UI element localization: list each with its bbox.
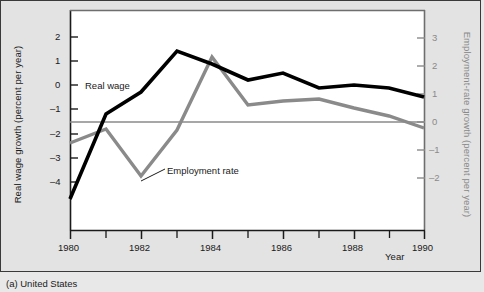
xtick-label-1984: 1984 xyxy=(200,242,221,253)
x-axis-title: Year xyxy=(385,251,405,262)
ytick-label-neg2: –2 xyxy=(50,128,61,139)
y-axis-title-right: Employment-rate growth (percent per year… xyxy=(462,25,473,225)
figure-container: 2 1 0 –1 –2 –3 –4 3 2 1 0 –1 –2 1980 198… xyxy=(0,0,484,292)
xtick-label-1986: 1986 xyxy=(271,242,292,253)
ytick-label-neg3: –3 xyxy=(50,152,61,163)
xtick-label-1990: 1990 xyxy=(412,242,433,253)
plot-area-background xyxy=(70,10,425,231)
y2tick-label-0: 0 xyxy=(432,116,437,127)
ytick-label-0: 0 xyxy=(55,79,60,90)
series-annotation-employment-rate: Employment rate xyxy=(167,165,239,176)
y2tick-label-1: 1 xyxy=(432,88,437,99)
xtick-label-1980: 1980 xyxy=(58,242,79,253)
ytick-label-2: 2 xyxy=(55,31,60,42)
series-annotation-real-wage: Real wage xyxy=(85,80,130,91)
ytick-label-neg4: –4 xyxy=(50,176,61,187)
y2tick-label-neg1: –1 xyxy=(429,144,440,155)
y2tick-label-neg2: –2 xyxy=(429,172,440,183)
chart-panel: 2 1 0 –1 –2 –3 –4 3 2 1 0 –1 –2 1980 198… xyxy=(0,0,481,272)
figure-caption: (a) United States xyxy=(6,278,77,289)
y2tick-label-2: 2 xyxy=(432,60,437,71)
chart-plot-svg xyxy=(1,1,482,273)
y2tick-label-3: 3 xyxy=(432,32,437,43)
ytick-label-1: 1 xyxy=(55,55,60,66)
axis-bottom-minor-ticks xyxy=(106,231,390,238)
xtick-label-1988: 1988 xyxy=(342,242,363,253)
ytick-label-neg1: –1 xyxy=(50,103,61,114)
y-axis-title-left: Real wage growth (percent per year) xyxy=(12,25,23,225)
xtick-label-1982: 1982 xyxy=(129,242,150,253)
